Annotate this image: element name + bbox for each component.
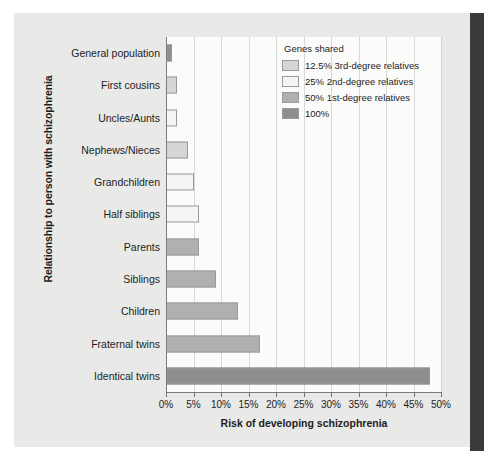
x-tick-label: 25% (293, 399, 313, 410)
x-tick (359, 392, 360, 397)
y-axis-line (166, 37, 167, 392)
legend-label: 100% (305, 108, 329, 119)
legend: Genes shared 12.5% 3rd-degree relatives2… (282, 43, 419, 122)
x-tick (166, 392, 167, 397)
legend-swatch (282, 76, 299, 87)
x-tick (249, 392, 250, 397)
page-edge-highlight (484, 17, 488, 455)
x-tick-label: 30% (321, 399, 341, 410)
legend-label: 25% 2nd-degree relatives (305, 76, 413, 87)
x-tick (304, 392, 305, 397)
legend-item: 100% (282, 106, 419, 121)
bar (166, 109, 177, 126)
x-tick-label: 50% (431, 399, 451, 410)
x-tick-label: 40% (376, 399, 396, 410)
legend-item: 25% 2nd-degree relatives (282, 74, 419, 89)
category-label: First cousins (101, 79, 160, 91)
x-tick-label: 15% (238, 399, 258, 410)
chart-row: Identical twins (166, 360, 441, 392)
x-tick-label: 20% (266, 399, 286, 410)
legend-label: 50% 1st-degree relatives (305, 92, 410, 103)
category-label: Parents (124, 241, 160, 253)
chart-row: Half siblings (166, 198, 441, 230)
x-tick (386, 392, 387, 397)
legend-swatch (282, 108, 299, 119)
legend-item: 50% 1st-degree relatives (282, 90, 419, 105)
x-tick-label: 0% (159, 399, 173, 410)
legend-item: 12.5% 3rd-degree relatives (282, 58, 419, 73)
category-label: Uncles/Aunts (98, 112, 160, 124)
chart-row: Fraternal twins (166, 327, 441, 359)
x-tick (331, 392, 332, 397)
chart-row: Children (166, 295, 441, 327)
bar (166, 367, 430, 384)
page-frame: Relationship to person with schizophreni… (0, 0, 488, 460)
x-tick (221, 392, 222, 397)
bar (166, 174, 194, 191)
category-label: General population (71, 47, 160, 59)
bar (166, 141, 188, 158)
bar (166, 206, 199, 223)
gridline (441, 37, 442, 392)
x-tick (441, 392, 442, 397)
x-tick (414, 392, 415, 397)
x-axis-title: Risk of developing schizophrenia (166, 417, 442, 429)
chart-row: Parents (166, 231, 441, 263)
legend-label: 12.5% 3rd-degree relatives (305, 60, 419, 71)
x-tick-label: 45% (403, 399, 423, 410)
page-binding-band (470, 13, 484, 451)
category-label: Children (121, 305, 160, 317)
category-label: Siblings (123, 273, 160, 285)
chart-row: Grandchildren (166, 166, 441, 198)
x-tick (194, 392, 195, 397)
category-label: Identical twins (94, 370, 160, 382)
x-tick-label: 5% (186, 399, 200, 410)
legend-swatch (282, 60, 299, 71)
y-axis-title: Relationship to person with schizophreni… (42, 59, 54, 299)
legend-swatch (282, 92, 299, 103)
category-label: Nephews/Nieces (81, 144, 160, 156)
bar (166, 238, 199, 255)
legend-title: Genes shared (282, 43, 419, 54)
x-tick (276, 392, 277, 397)
x-tick-label: 10% (211, 399, 231, 410)
category-label: Half siblings (103, 208, 160, 220)
x-tick-label: 35% (348, 399, 368, 410)
bar (166, 303, 238, 320)
bar (166, 271, 216, 288)
category-label: Grandchildren (94, 176, 160, 188)
bar (166, 77, 177, 94)
bar (166, 335, 260, 352)
schizophrenia-risk-bar-chart: Relationship to person with schizophreni… (14, 13, 456, 447)
chart-row: Siblings (166, 263, 441, 295)
category-label: Fraternal twins (91, 338, 160, 350)
legend-items: 12.5% 3rd-degree relatives25% 2nd-degree… (282, 58, 419, 121)
chart-row: Nephews/Nieces (166, 134, 441, 166)
